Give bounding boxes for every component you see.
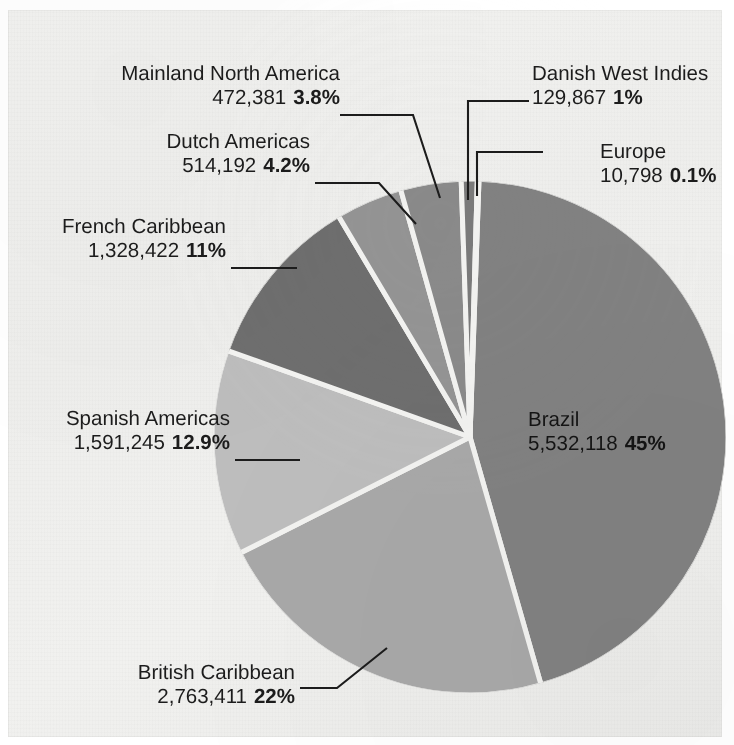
pie-chart-svg: [0, 0, 734, 745]
slice-label-british-caribbean: British Caribbean 2,763,41122%: [75, 661, 295, 709]
slice-value-british-caribbean: 2,763,411: [157, 685, 247, 708]
slice-label-brazil: Brazil 5,532,11845%: [528, 408, 666, 456]
pie-chart-figure: Mainland North America 472,3813.8% Dutch…: [0, 0, 734, 745]
slice-label-french-caribbean: French Caribbean 1,328,42211%: [10, 215, 226, 263]
slice-values-danish-west-indies: 129,8671%: [532, 86, 708, 110]
slice-value-dutch-americas: 514,192: [182, 154, 256, 177]
slice-values-spanish-americas: 1,591,24512.9%: [10, 431, 230, 455]
slice-name-spanish-americas: Spanish Americas: [10, 407, 230, 431]
slice-name-mainland-north-america: Mainland North America: [110, 62, 340, 86]
slice-percent-british-caribbean: 22%: [254, 685, 295, 708]
slice-name-british-caribbean: British Caribbean: [75, 661, 295, 685]
slice-percent-spanish-americas: 12.9%: [172, 431, 230, 454]
slice-name-europe: Europe: [600, 140, 716, 164]
slice-name-danish-west-indies: Danish West Indies: [532, 62, 708, 86]
slice-value-brazil: 5,532,118: [528, 432, 618, 455]
slice-value-mainland-north-america: 472,381: [212, 86, 286, 109]
slice-label-europe: Europe 10,7980.1%: [600, 140, 716, 188]
slice-values-french-caribbean: 1,328,42211%: [10, 239, 226, 263]
slice-values-dutch-americas: 514,1924.2%: [95, 154, 310, 178]
slice-value-danish-west-indies: 129,867: [532, 86, 606, 109]
slice-percent-brazil: 45%: [625, 432, 666, 455]
slice-percent-dutch-americas: 4.2%: [263, 154, 310, 177]
slice-value-french-caribbean: 1,328,422: [88, 239, 179, 262]
slice-percent-french-caribbean: 11%: [186, 239, 226, 262]
slice-value-europe: 10,798: [600, 164, 663, 187]
slice-values-brazil: 5,532,11845%: [528, 432, 666, 456]
slice-name-brazil: Brazil: [528, 408, 666, 432]
slice-percent-mainland-north-america: 3.8%: [293, 86, 340, 109]
slice-values-mainland-north-america: 472,3813.8%: [110, 86, 340, 110]
slice-value-spanish-americas: 1,591,245: [74, 431, 165, 454]
slice-label-danish-west-indies: Danish West Indies 129,8671%: [532, 62, 708, 110]
slice-percent-danish-west-indies: 1%: [613, 86, 643, 109]
slice-values-british-caribbean: 2,763,41122%: [75, 685, 295, 709]
slice-name-dutch-americas: Dutch Americas: [95, 130, 310, 154]
slice-name-french-caribbean: French Caribbean: [10, 215, 226, 239]
slice-values-europe: 10,7980.1%: [600, 164, 716, 188]
slice-percent-europe: 0.1%: [670, 164, 717, 187]
slice-label-mainland-north-america: Mainland North America 472,3813.8%: [110, 62, 340, 110]
slice-label-dutch-americas: Dutch Americas 514,1924.2%: [95, 130, 310, 178]
slice-label-spanish-americas: Spanish Americas 1,591,24512.9%: [10, 407, 230, 455]
